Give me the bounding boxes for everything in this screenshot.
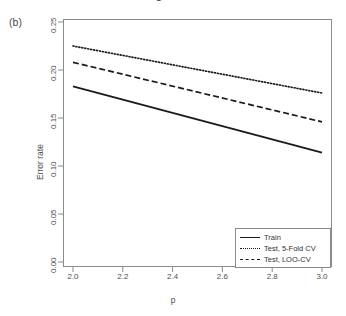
x-tick-label: 2.6	[207, 272, 237, 281]
legend: Train Test, 5-Fold CV Test, LOO-CV	[235, 228, 331, 268]
x-tick-label: 2.8	[257, 272, 287, 281]
legend-item: Test, LOO-CV	[236, 254, 330, 265]
x-tick-label: 2.0	[58, 272, 88, 281]
legend-item: Train	[236, 232, 330, 243]
dotted-line-icon	[240, 244, 260, 253]
dashed-line-icon	[240, 255, 260, 264]
legend-item: Test, 5-Fold CV	[236, 243, 330, 254]
y-tick-label: 0.20	[49, 65, 58, 81]
y-tick-label: 0.10	[49, 161, 58, 177]
x-tick-label: 2.2	[108, 272, 138, 281]
y-tick-label: 0.00	[49, 257, 58, 273]
series-line	[73, 62, 322, 122]
x-tick-label: 3.0	[307, 272, 337, 281]
y-axis-ticks	[58, 22, 63, 262]
series-line	[73, 86, 322, 152]
legend-item-label: Train	[264, 233, 281, 242]
data-series-lines	[73, 46, 322, 153]
series-line	[73, 46, 322, 93]
y-tick-label: 0.15	[49, 113, 58, 129]
y-tick-label: 0.05	[49, 209, 58, 225]
legend-item-label: Test, 5-Fold CV	[264, 244, 316, 253]
figure-panel-b: Training & Test Error (b) Error rate p 0…	[0, 0, 346, 316]
y-tick-label: 0.25	[49, 17, 58, 33]
legend-item-label: Test, LOO-CV	[264, 255, 311, 264]
solid-line-icon	[240, 233, 260, 242]
x-tick-label: 2.4	[158, 272, 188, 281]
